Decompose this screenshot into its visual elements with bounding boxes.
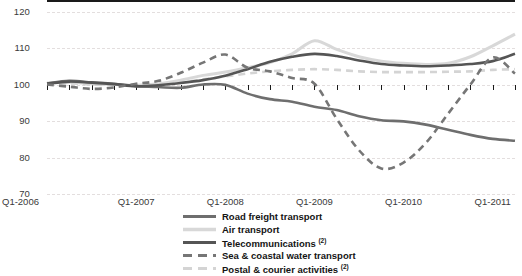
x-tick-label-Q1-2007: Q1-2007 (118, 196, 155, 207)
legend-swatch-icon (183, 249, 216, 262)
chart-root: 708090100110120 Q1-2006Q1-2007Q1-2008Q1-… (0, 0, 522, 276)
x-tick-label-Q1-2009: Q1-2009 (296, 196, 333, 207)
legend-item[interactable]: Postal & courier activities (2) (183, 262, 356, 275)
legend-item[interactable]: Telecommunications (2) (183, 236, 356, 249)
chart-legend: Road freight transportAir transportTelec… (183, 210, 356, 275)
series-lines (0, 0, 522, 200)
legend-item[interactable]: Road freight transport (183, 210, 356, 223)
legend-footnote-marker: (2) (318, 237, 326, 244)
x-tick-label-Q1-2006: Q1-2006 (2, 196, 39, 207)
legend-swatch-icon (183, 262, 216, 275)
legend-label: Road freight transport (222, 210, 322, 223)
legend-swatch-icon (183, 236, 216, 249)
x-tick-label-Q1-2008: Q1-2008 (207, 196, 244, 207)
x-tick-label-Q1-2011: Q1-2011 (475, 196, 511, 207)
series-line (47, 81, 515, 141)
x-tick-label-Q1-2010: Q1-2010 (385, 196, 422, 207)
legend-footnote-marker: (2) (341, 263, 349, 270)
plot-area: 708090100110120 (0, 0, 522, 200)
legend-swatch-icon (183, 210, 216, 223)
legend-swatch-icon (183, 223, 216, 236)
legend-label: Postal & courier activities (2) (222, 260, 349, 276)
